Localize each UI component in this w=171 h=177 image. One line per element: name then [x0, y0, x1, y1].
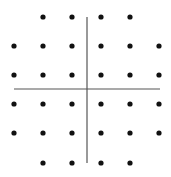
lattice-point: [127, 130, 132, 135]
lattice-point: [11, 130, 16, 135]
lattice-point: [127, 101, 132, 106]
lattice-point: [98, 101, 103, 106]
lattice-point: [98, 14, 103, 19]
lattice-point: [40, 160, 45, 165]
lattice-point: [127, 43, 132, 48]
lattice-point: [40, 130, 45, 135]
lattice-point: [127, 160, 132, 165]
lattice-point: [40, 43, 45, 48]
lattice-point: [156, 101, 161, 106]
lattice-point: [98, 130, 103, 135]
lattice-point: [11, 72, 16, 77]
lattice-point: [156, 130, 161, 135]
lattice-point: [69, 14, 74, 19]
lattice-point: [11, 101, 16, 106]
lattice-point: [127, 14, 132, 19]
lattice-point: [69, 101, 74, 106]
lattice-point: [69, 160, 74, 165]
lattice-point: [98, 43, 103, 48]
lattice-point: [40, 101, 45, 106]
lattice-point: [98, 160, 103, 165]
lattice-point: [69, 72, 74, 77]
lattice-point: [156, 43, 161, 48]
lattice-point: [156, 72, 161, 77]
lattice-point: [40, 14, 45, 19]
lattice-point: [127, 72, 132, 77]
lattice-point: [40, 72, 45, 77]
diagram-svg: [0, 0, 171, 177]
lattice-point: [69, 130, 74, 135]
lattice-point: [11, 43, 16, 48]
lattice-diagram: [0, 0, 171, 177]
lattice-point: [98, 72, 103, 77]
lattice-point: [69, 43, 74, 48]
